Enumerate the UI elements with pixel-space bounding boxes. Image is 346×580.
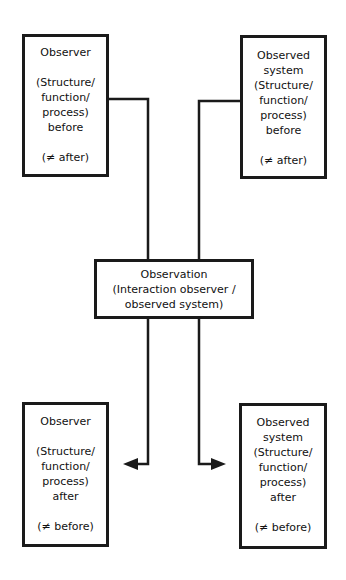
box-text: (Interaction observer /	[97, 282, 251, 297]
box-text: (Structure/	[242, 445, 324, 460]
box-title: Observed	[243, 48, 324, 63]
connector-observer-to-observation	[108, 99, 148, 260]
box-note: (≠ before)	[25, 519, 106, 534]
arrow-left-icon	[123, 458, 138, 470]
box-title: Observed	[242, 415, 324, 430]
box-text: (Structure/	[243, 78, 324, 93]
box-title: system	[242, 430, 324, 445]
box-text: function/	[243, 93, 324, 108]
box-text: (Structure/	[25, 75, 106, 90]
box-note: (≠ after)	[243, 153, 324, 168]
box-text: after	[242, 490, 324, 505]
box-text: observed system)	[97, 297, 251, 312]
observation-box: Observation (Interaction observer / obse…	[94, 259, 254, 319]
box-text: after	[25, 489, 106, 504]
connector-observation-to-observer-after	[134, 318, 148, 464]
box-text: before	[243, 123, 324, 138]
observer-before-box: Observer (Structure/ function/ process) …	[22, 34, 109, 177]
box-text: (Structure/	[25, 444, 106, 459]
box-title: Observer	[25, 45, 106, 60]
box-text: function/	[25, 459, 106, 474]
box-title: system	[243, 63, 324, 78]
box-text: process)	[25, 474, 106, 489]
box-text: process)	[242, 475, 324, 490]
observed-system-after-box: Observed system (Structure/ function/ pr…	[239, 403, 327, 549]
box-text: process)	[25, 105, 106, 120]
box-title: Observer	[25, 414, 106, 429]
connector-observed-to-observation	[199, 101, 240, 260]
connector-observation-to-observed-after	[199, 318, 214, 464]
box-text: process)	[243, 108, 324, 123]
box-text: before	[25, 120, 106, 135]
box-text: function/	[25, 90, 106, 105]
observer-after-box: Observer (Structure/ function/ process) …	[22, 402, 109, 547]
box-note: (≠ after)	[25, 150, 106, 165]
box-title: Observation	[97, 267, 251, 282]
box-note: (≠ before)	[242, 520, 324, 535]
arrow-right-icon	[211, 458, 226, 470]
observed-system-before-box: Observed system (Structure/ function/ pr…	[240, 35, 327, 179]
box-text: function/	[242, 460, 324, 475]
